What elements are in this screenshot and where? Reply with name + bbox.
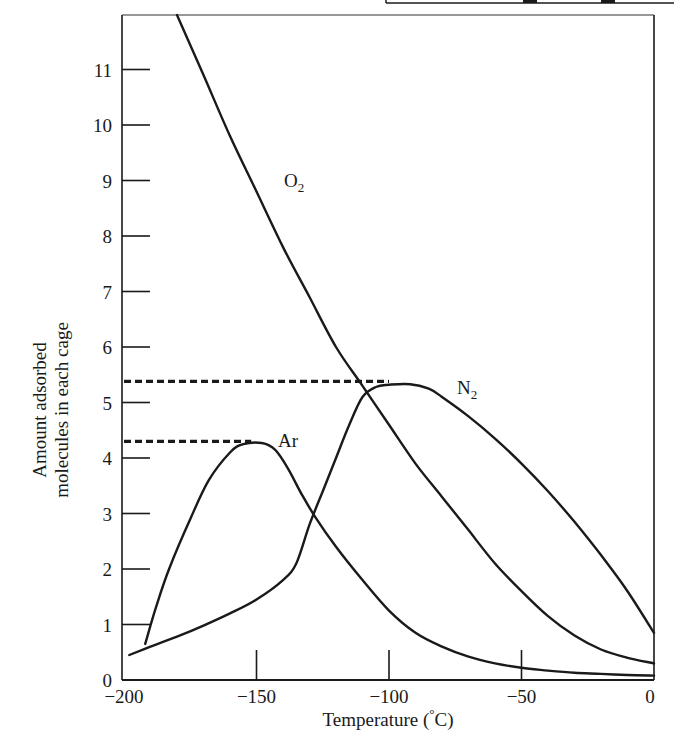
y-tick-label: 10 xyxy=(93,115,112,136)
ar-curve xyxy=(145,443,654,676)
y-tick-label: 8 xyxy=(103,226,113,247)
x-tick-label: 0 xyxy=(645,686,655,707)
x-tick-label: −50 xyxy=(507,686,537,707)
x-tick-label: −200 xyxy=(104,686,143,707)
y-tick-label: 3 xyxy=(103,504,113,525)
y-tick-label: 4 xyxy=(103,448,113,469)
y-axis-title-line2: molecules in each cage xyxy=(51,322,72,498)
y-tick-label: 11 xyxy=(94,60,112,81)
y-tick-label: 2 xyxy=(103,559,113,580)
y-axis-title-line1: Amount adsorbed xyxy=(29,342,50,478)
x-tick-label: −100 xyxy=(369,686,408,707)
adsorption-chart: 01234567891011 −200−150−100−500 O2 N2 Ar… xyxy=(0,0,674,754)
y-tick-label: 1 xyxy=(103,615,113,636)
y-tick-label: 7 xyxy=(103,282,113,303)
y-tick-label: 6 xyxy=(103,337,113,358)
y-tick-label: 5 xyxy=(103,393,113,414)
o2-series-label: O2 xyxy=(284,170,304,195)
y-tick-label: 9 xyxy=(103,171,113,192)
x-axis-title: Temperature (°C) xyxy=(322,706,453,731)
y-axis-title: Amount adsorbed molecules in each cage xyxy=(29,322,72,498)
data-series xyxy=(129,15,654,676)
x-tick-label: −150 xyxy=(237,686,276,707)
n2-series-label: N2 xyxy=(457,377,477,402)
o2-curve xyxy=(177,15,654,663)
cropped-header-box xyxy=(386,0,674,3)
dashed-reference-lines xyxy=(124,381,389,441)
ar-series-label: Ar xyxy=(278,430,299,451)
x-axis-ticks: −200−150−100−500 xyxy=(104,650,654,707)
plot-frame xyxy=(122,15,654,680)
